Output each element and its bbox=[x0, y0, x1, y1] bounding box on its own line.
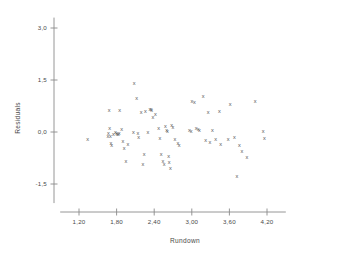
x-axis: 1,201,802,403,003,604,20 bbox=[60, 209, 286, 226]
data-point: x bbox=[108, 107, 111, 113]
x-tick-label: 3,60 bbox=[223, 218, 236, 225]
data-point: x bbox=[118, 107, 121, 113]
data-point: x bbox=[147, 129, 150, 135]
data-point: x bbox=[241, 148, 244, 154]
data-point: x bbox=[233, 134, 236, 140]
data-point: x bbox=[214, 136, 217, 142]
data-point: x bbox=[86, 136, 89, 142]
data-point: x bbox=[125, 158, 128, 164]
data-point: x bbox=[157, 125, 160, 131]
data-point: x bbox=[160, 151, 163, 157]
data-point: x bbox=[193, 99, 196, 105]
data-point: x bbox=[126, 141, 129, 147]
data-point: x bbox=[246, 154, 249, 160]
x-tick-label: 1,20 bbox=[73, 218, 86, 225]
data-point: x bbox=[207, 109, 210, 115]
data-point: x bbox=[133, 80, 136, 86]
data-point: x bbox=[178, 142, 181, 148]
data-point: x bbox=[198, 127, 201, 133]
data-point: x bbox=[172, 124, 175, 130]
data-point: x bbox=[211, 127, 214, 133]
data-point: x bbox=[110, 142, 113, 148]
data-point: x bbox=[219, 141, 222, 147]
data-point: x bbox=[154, 111, 157, 117]
data-point: x bbox=[150, 107, 153, 113]
y-tick-label: 0,0 bbox=[38, 128, 48, 135]
data-point: x bbox=[163, 161, 166, 167]
data-point: x bbox=[135, 95, 138, 101]
data-point: x bbox=[142, 161, 145, 167]
data-point: x bbox=[227, 136, 230, 142]
data-point: x bbox=[202, 93, 205, 99]
y-axis-title: Residuals bbox=[14, 102, 21, 134]
x-tick-label: 2,40 bbox=[148, 218, 161, 225]
data-point: x bbox=[229, 101, 232, 107]
plot-canvas: 3,01,50,0-1,5 1,201,802,403,003,604,20 x… bbox=[0, 0, 337, 255]
data-point: x bbox=[158, 135, 161, 141]
data-point: x bbox=[169, 165, 172, 171]
data-point: x bbox=[254, 98, 257, 104]
data-point: x bbox=[132, 129, 135, 135]
x-axis-title: Rundown bbox=[170, 237, 200, 244]
data-point: x bbox=[218, 108, 221, 114]
data-point: x bbox=[190, 128, 193, 134]
data-point: x bbox=[137, 134, 140, 140]
data-point: x bbox=[168, 159, 171, 165]
x-tick-label: 3,00 bbox=[185, 218, 198, 225]
data-point: x bbox=[143, 151, 146, 157]
x-tick-label: 4,20 bbox=[261, 218, 274, 225]
data-point: x bbox=[123, 145, 126, 151]
data-point: x bbox=[236, 173, 239, 179]
data-point: x bbox=[204, 137, 207, 143]
scatter-chart: 3,01,50,0-1,5 1,201,802,403,003,604,20 x… bbox=[0, 0, 337, 255]
x-tick-label: 1,80 bbox=[110, 218, 123, 225]
data-points: xxxxxxxxxxxxxxxxxxxxxxxxxxxxxxxxxxxxxxxx… bbox=[86, 80, 266, 179]
data-point: x bbox=[209, 139, 212, 145]
data-point: x bbox=[140, 109, 143, 115]
data-point: x bbox=[120, 126, 123, 132]
y-tick-label: -1,5 bbox=[36, 180, 48, 187]
data-point: x bbox=[121, 138, 124, 144]
y-axis: 3,01,50,0-1,5 bbox=[36, 18, 58, 203]
data-point: x bbox=[262, 128, 265, 134]
data-point: x bbox=[166, 128, 169, 134]
data-point: x bbox=[144, 108, 147, 114]
data-point: x bbox=[106, 133, 109, 139]
y-tick-label: 3,0 bbox=[38, 24, 48, 31]
data-point: x bbox=[263, 135, 266, 141]
y-tick-label: 1,5 bbox=[38, 76, 48, 83]
